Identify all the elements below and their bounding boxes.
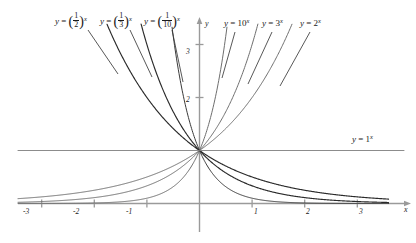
curve-5 xyxy=(18,24,258,202)
xtick-label--1: -1 xyxy=(126,208,132,216)
leader-line-2 xyxy=(172,30,183,82)
xtick-label-2: 2 xyxy=(306,208,310,216)
curve-label-one: y = 1x xyxy=(352,134,373,144)
xtick-label-3: 3 xyxy=(359,208,363,216)
curve-label-three: y = 3x xyxy=(262,18,283,28)
leader-line-0 xyxy=(88,30,118,74)
ytick-label-3: 3 xyxy=(186,48,190,56)
ytick-label-2: 2 xyxy=(186,96,190,104)
leader-line-3 xyxy=(222,32,235,78)
xtick-label--3: -3 xyxy=(23,208,29,216)
leader-line-1 xyxy=(130,30,152,77)
xtick-label--2: -2 xyxy=(73,208,79,216)
curve-2 xyxy=(172,27,389,203)
curve-1 xyxy=(141,24,388,202)
x-axis-name: x xyxy=(404,206,408,214)
curve-label-ten: y = 10x xyxy=(224,18,249,28)
curve-label-tenth: y = (110)x xyxy=(144,12,180,29)
curve-label-two: y = 2x xyxy=(300,18,321,28)
xtick-label-1: 1 xyxy=(254,208,258,216)
curve-4 xyxy=(18,27,227,203)
curves-group xyxy=(18,24,404,203)
curve-6 xyxy=(18,24,292,198)
curve-label-half: y = (12)x xyxy=(55,12,87,29)
plot-canvas xyxy=(0,0,416,243)
y-axis-name: y xyxy=(205,20,209,28)
leader-line-4 xyxy=(248,32,272,84)
exponential-functions-figure: -3 -2 -1 1 2 3 3 2 y x y = (12)x y = (13… xyxy=(0,0,416,243)
curve-label-third: y = (13)x xyxy=(100,12,132,29)
